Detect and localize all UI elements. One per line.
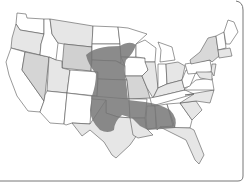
state-maryland-delaware xyxy=(196,72,212,80)
us-map xyxy=(0,0,245,182)
state-north-dakota xyxy=(92,26,120,44)
state-massachusetts-ct-ri xyxy=(218,48,232,58)
state-florida xyxy=(160,127,204,164)
state-maine xyxy=(224,20,238,44)
state-michigan xyxy=(158,42,175,62)
us-map-svg xyxy=(0,0,245,182)
state-new-york xyxy=(190,36,219,64)
state-new-mexico xyxy=(64,93,92,125)
